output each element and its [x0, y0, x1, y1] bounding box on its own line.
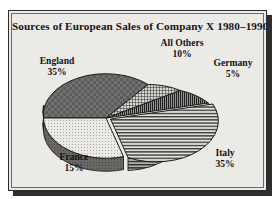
pie-label-england-percent: 35% — [28, 67, 86, 78]
pie-label-france-percent: 15% — [46, 163, 102, 174]
chart-screenshot: Sources of European Sales of Company X 1… — [0, 0, 278, 199]
pie-label-italy-name: Italy — [215, 147, 234, 158]
pie-label-france-name: France — [60, 151, 89, 162]
pie-label-england: England 35% — [28, 56, 86, 77]
pie-label-italy: Italy 35% — [200, 148, 250, 169]
pie-label-germany-name: Germany — [214, 57, 253, 68]
pie-label-italy-percent: 35% — [200, 159, 250, 170]
chart-figure-frame: Sources of European Sales of Company X 1… — [8, 10, 267, 191]
pie-label-germany-percent: 5% — [202, 69, 264, 80]
pie-label-england-name: England — [40, 55, 75, 66]
pie-top-face — [43, 74, 218, 162]
pie-chart-plot-area: England 35% All Others 10% Germany 5% It… — [12, 36, 267, 191]
pie-label-france: France 15% — [46, 152, 102, 173]
chart-figure-inner-border: Sources of European Sales of Company X 1… — [11, 13, 264, 188]
chart-title: Sources of European Sales of Company X 1… — [12, 20, 263, 32]
pie-label-all-others: All Others 10% — [148, 38, 216, 59]
pie-label-all-others-name: All Others — [161, 37, 204, 48]
pie-label-germany: Germany 5% — [202, 58, 264, 79]
